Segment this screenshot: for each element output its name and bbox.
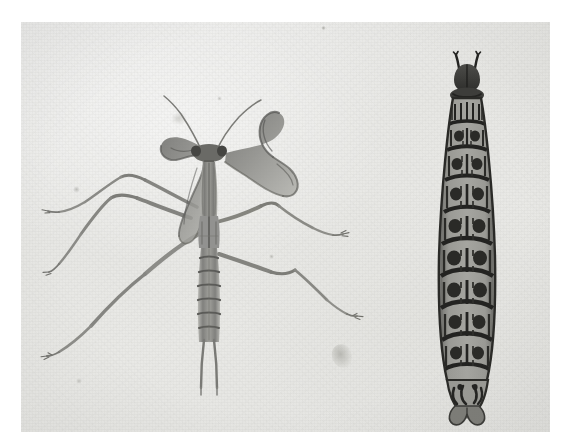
mantis-cerci — [201, 340, 217, 395]
larva-anal-claspers — [447, 380, 488, 425]
mantis-eye-right — [217, 146, 227, 157]
mantis-hindleg-right — [219, 254, 363, 320]
mantis-abdomen — [198, 248, 220, 342]
larva-head — [450, 52, 484, 103]
larva-body — [439, 98, 495, 385]
mantis-raptorial-foreleg-right — [225, 112, 298, 196]
mantis-thorax — [201, 162, 218, 216]
mantis-hindleg-left — [41, 234, 199, 359]
mantis-eye-left — [191, 146, 201, 157]
photographic-plate — [21, 22, 550, 432]
specimen-larva — [397, 46, 537, 426]
mantis-mesothorax — [198, 216, 219, 248]
mantis-midleg-right — [217, 203, 349, 236]
larva-segment — [449, 102, 485, 124]
specimen-mantis — [21, 22, 381, 432]
mantis-midleg-left — [43, 195, 191, 275]
image-canvas — [0, 0, 565, 448]
